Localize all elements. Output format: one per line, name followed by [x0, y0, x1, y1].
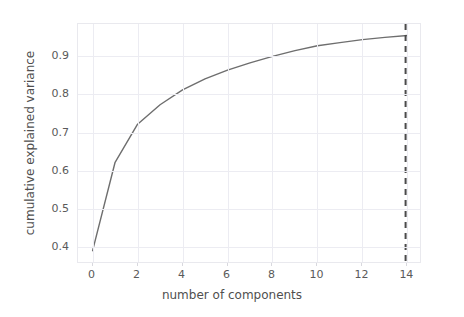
gridline-vertical	[407, 24, 408, 262]
y-axis-tick-label: 0.8	[52, 87, 70, 100]
y-axis-tick-label: 0.6	[52, 163, 70, 176]
gridline-horizontal	[78, 133, 420, 134]
x-axis-tick-label: 2	[133, 268, 140, 281]
y-axis-tick-label: 0.4	[52, 239, 70, 252]
gridline-vertical	[138, 24, 139, 262]
gridline-vertical	[362, 24, 363, 262]
x-axis-tick-label: 8	[268, 268, 275, 281]
x-axis-title: number of components	[0, 288, 464, 302]
x-axis-tick-label: 0	[88, 268, 95, 281]
x-axis-tick-label: 14	[399, 268, 413, 281]
gridline-vertical	[183, 24, 184, 262]
x-axis-tick-label: 6	[223, 268, 230, 281]
x-axis-tick-labels: 02468101214	[0, 268, 464, 284]
series-polyline	[93, 35, 408, 250]
x-axis-tick-mark	[406, 263, 407, 266]
gridline-horizontal	[78, 171, 420, 172]
x-axis-tick-label: 4	[178, 268, 185, 281]
series-line	[78, 24, 422, 264]
x-axis-tick-label: 12	[354, 268, 368, 281]
gridline-horizontal	[78, 247, 420, 248]
chart-figure: 0.40.50.60.70.80.9 02468101214 number of…	[0, 0, 464, 317]
x-axis-tick-mark	[361, 263, 362, 266]
gridline-horizontal	[78, 94, 420, 95]
gridline-vertical	[272, 24, 273, 262]
plot-area	[77, 23, 421, 263]
gridline-vertical	[317, 24, 318, 262]
x-axis-tick-mark	[227, 263, 228, 266]
gridline-vertical	[228, 24, 229, 262]
gridline-vertical	[93, 24, 94, 262]
gridline-horizontal	[78, 209, 420, 210]
y-axis-title: cumulative explained variance	[23, 23, 37, 263]
x-axis-tick-mark	[182, 263, 183, 266]
x-axis-tick-mark	[92, 263, 93, 266]
x-axis-tick-mark	[271, 263, 272, 266]
gridline-horizontal	[78, 56, 420, 57]
y-axis-title-wrap: cumulative explained variance	[0, 0, 30, 317]
y-axis-tick-label: 0.5	[52, 201, 70, 214]
y-axis-tick-label: 0.7	[52, 125, 70, 138]
x-axis-tick-mark	[316, 263, 317, 266]
x-axis-tick-label: 10	[309, 268, 323, 281]
y-axis-tick-label: 0.9	[52, 49, 70, 62]
x-axis-tick-mark	[137, 263, 138, 266]
